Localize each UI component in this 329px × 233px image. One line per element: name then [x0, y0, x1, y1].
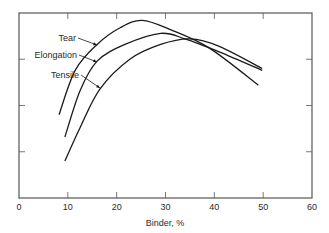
- x-tick-label: 60: [307, 202, 317, 212]
- label-tensile: Tensile: [51, 70, 79, 80]
- arrowhead-icon: [96, 85, 100, 88]
- label-elongation: Elongation: [34, 50, 77, 60]
- x-tick-label: 20: [112, 202, 122, 212]
- binder-property-chart: 0102030405060 TearElongationTensile Bind…: [0, 0, 329, 233]
- x-tick-label: 0: [16, 202, 21, 212]
- series-line-tear: [59, 20, 258, 114]
- x-axis-label: Binder, %: [146, 218, 185, 228]
- arrowhead-icon: [93, 42, 97, 45]
- chart-canvas: 0102030405060 TearElongationTensile Bind…: [0, 0, 329, 233]
- data-series: [59, 20, 262, 161]
- series-line-elongation: [65, 33, 262, 137]
- x-tick-label: 10: [63, 202, 73, 212]
- x-tick-label: 50: [258, 202, 268, 212]
- series-labels: TearElongationTensile: [34, 33, 100, 88]
- x-tick-label: 30: [160, 202, 170, 212]
- label-tear: Tear: [58, 33, 76, 43]
- x-tick-label: 40: [209, 202, 219, 212]
- arrowhead-icon: [93, 59, 97, 62]
